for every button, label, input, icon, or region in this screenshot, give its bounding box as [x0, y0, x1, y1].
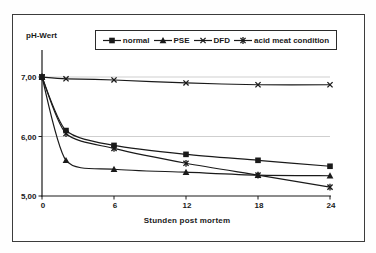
legend-x-icon	[194, 36, 212, 45]
marker-square-icon	[255, 158, 261, 164]
marker-square-icon	[183, 152, 189, 158]
x-tick-label: 24	[327, 201, 336, 210]
x-tick-label: 6	[113, 201, 118, 210]
legend-square-icon	[103, 36, 121, 45]
marker-square-icon	[39, 74, 45, 80]
legend-item-DFD: DFD	[194, 36, 230, 45]
x-tick-label: 0	[41, 201, 46, 210]
legend-item-PSE: PSE	[154, 36, 190, 45]
legend-label-PSE: PSE	[174, 36, 190, 45]
legend-triangle-icon	[154, 36, 172, 45]
marker-square-icon	[63, 128, 69, 134]
legend-item-acid-meat-condition: acid meat condition	[234, 36, 329, 45]
marker-triangle-icon	[63, 157, 70, 163]
marker-square-icon	[111, 143, 117, 149]
legend-label-normal: normal	[123, 36, 150, 45]
legend: normalPSEDFDacid meat condition	[95, 30, 337, 50]
figure-page: pH-Wert normalPSEDFDacid meat condition …	[0, 0, 376, 253]
legend-star-icon	[234, 36, 252, 45]
y-tick-label: 5,00	[21, 192, 37, 201]
legend-item-normal: normal	[103, 36, 150, 45]
y-tick-label: 7,00	[21, 73, 37, 82]
x-tick-label: 12	[183, 201, 192, 210]
y-tick-label: 6,00	[21, 133, 37, 142]
marker-square-icon	[109, 37, 115, 43]
x-tick-label: 18	[255, 201, 264, 210]
marker-square-icon	[327, 163, 333, 169]
legend-label-DFD: DFD	[214, 36, 230, 45]
legend-label-acid-meat-condition: acid meat condition	[254, 36, 329, 45]
